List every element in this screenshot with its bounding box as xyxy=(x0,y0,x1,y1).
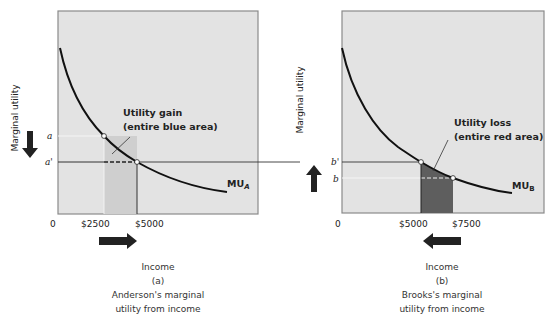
y-axis-label-a: Marginal utility xyxy=(10,84,20,152)
loss-annotation-line1: Utility loss xyxy=(454,117,512,128)
point-a-prime xyxy=(135,160,140,165)
panel-b-id: (b) xyxy=(372,274,512,288)
x-axis-label-a: Income xyxy=(88,260,228,274)
point-b xyxy=(451,176,456,181)
arrow-right-icon xyxy=(99,233,137,249)
y-axis-label-b: Marginal utility xyxy=(295,66,305,134)
origin-b: 0 xyxy=(335,219,341,229)
y-tick-b-prime: b' xyxy=(331,157,339,167)
panel-a-id: (a) xyxy=(88,274,228,288)
y-tick-b: b xyxy=(333,174,339,184)
y-tick-a-prime: a' xyxy=(45,157,53,167)
panel-a-caption: Income (a) Anderson's marginal utility f… xyxy=(88,260,228,316)
x-axis-label-b: Income xyxy=(372,260,512,274)
panel-b-title-line1: Brooks's marginal xyxy=(372,288,512,302)
panel-a-title-line2: utility from income xyxy=(88,302,228,316)
panel-a-title-line1: Anderson's marginal xyxy=(88,288,228,302)
x-tick-5000-a: $5000 xyxy=(135,219,164,229)
panel-b-caption: Income (b) Brooks's marginal utility fro… xyxy=(372,260,512,316)
panel-b: Utility loss (entire red area) MUB b' b … xyxy=(295,11,544,249)
arrow-left-icon xyxy=(423,233,461,249)
x-tick-2500: $2500 xyxy=(81,219,110,229)
utility-gain-area xyxy=(104,136,137,214)
panel-b-title-line2: utility from income xyxy=(372,302,512,316)
y-tick-a: a xyxy=(47,131,52,141)
x-tick-7500: $7500 xyxy=(452,219,481,229)
loss-annotation-line2: (entire red area) xyxy=(454,131,543,142)
point-a xyxy=(102,134,107,139)
origin-a: 0 xyxy=(50,219,56,229)
gain-annotation-line2: (entire blue area) xyxy=(123,121,218,132)
x-tick-5000-b: $5000 xyxy=(399,219,428,229)
panel-a: Utility gain (entire blue area) MUA a a'… xyxy=(10,11,300,249)
point-b-prime xyxy=(419,160,424,165)
gain-annotation-line1: Utility gain xyxy=(123,107,183,118)
arrow-down-icon xyxy=(22,131,38,158)
arrow-up-icon xyxy=(306,165,322,192)
